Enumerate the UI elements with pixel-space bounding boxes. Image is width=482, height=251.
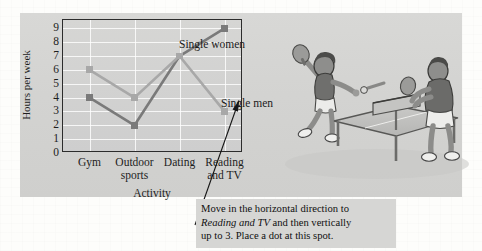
data-point-marker (131, 122, 138, 129)
x-axis-label: Activity (133, 187, 171, 199)
ping-pong-ball (361, 83, 384, 93)
data-point-marker (86, 66, 93, 73)
series-line (90, 56, 225, 111)
data-point-marker (221, 25, 228, 32)
y-axis-tick: 4 (53, 92, 59, 104)
series-label-single-women: Single women (179, 38, 245, 50)
data-point-marker (176, 53, 183, 60)
x-axis-tick: Readingand TV (205, 156, 243, 182)
table-tennis-illustration (272, 14, 477, 196)
y-axis-tick: 3 (53, 106, 59, 118)
callout-annotation: Move in the horizontal direction to Read… (196, 199, 396, 248)
y-axis-tick: 5 (53, 78, 59, 90)
annotation-emphasis: Reading and TV (201, 217, 270, 228)
y-axis-tick: 9 (53, 23, 59, 35)
x-axis-tick: Dating (164, 156, 195, 169)
data-point-marker (131, 94, 138, 101)
annotation-line-2: Reading and TV and then vertically (201, 216, 391, 230)
x-axis-tick: Outdoorsports (115, 156, 153, 182)
plot-area: 9876543210 GymOutdoorsportsDatingReading… (62, 19, 242, 152)
series-label-single-men: Single men (221, 97, 273, 109)
player-left (290, 42, 360, 142)
y-axis-tick: 8 (53, 36, 59, 48)
data-point-marker (86, 94, 93, 101)
data-point-marker (221, 108, 228, 115)
y-axis-tick: 7 (53, 50, 59, 62)
y-axis-tick: 6 (53, 64, 59, 76)
annotation-line-1: Move in the horizontal direction to (201, 202, 391, 216)
annotation-line-2-rest: and then vertically (270, 217, 351, 228)
annotation-line-3: up to 3. Place a dot at this spot. (201, 229, 391, 243)
y-axis-label: Hours per week (20, 50, 32, 120)
y-axis-tick: 1 (53, 133, 59, 145)
line-chart: Hours per week 9876543210 GymOutdoorspor… (20, 13, 260, 203)
y-axis-tick: 2 (53, 120, 59, 132)
y-axis-tick: 0 (53, 147, 59, 159)
x-axis-tick: Gym (78, 156, 101, 169)
